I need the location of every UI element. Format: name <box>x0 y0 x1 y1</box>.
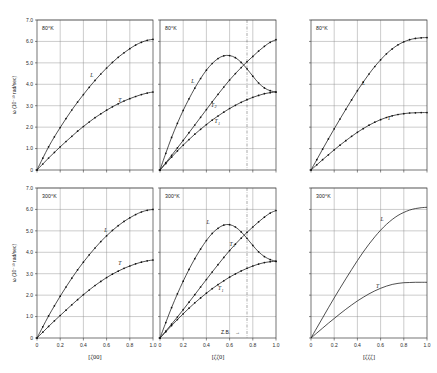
data-point <box>269 41 271 43</box>
x-tick-label: 1.0 <box>150 342 157 348</box>
y-tick-label: 3.0 <box>26 271 33 277</box>
x-tick-label: 0 <box>310 342 313 348</box>
x-axis-title: [ζζ0] <box>212 353 225 361</box>
data-point <box>146 260 148 262</box>
data-point <box>252 265 254 267</box>
branch-label-L: L <box>205 219 209 225</box>
data-point <box>211 119 213 121</box>
panel-ζζζ-80K: 80°KLT <box>309 20 428 173</box>
data-point <box>252 56 254 58</box>
data-point <box>246 61 248 63</box>
curve-L <box>160 55 276 170</box>
data-point <box>112 106 114 108</box>
data-point <box>129 265 131 267</box>
x-tick-label: 0.8 <box>126 342 133 348</box>
data-point <box>258 50 260 52</box>
data-point <box>264 87 266 89</box>
data-point <box>391 48 393 50</box>
data-point <box>211 288 213 290</box>
data-point <box>171 156 173 158</box>
data-point <box>374 121 376 123</box>
x-tick-label: 0.4 <box>80 342 87 348</box>
data-point <box>65 141 67 143</box>
branch-label-T1: T1 <box>215 118 221 126</box>
data-point <box>135 96 137 98</box>
data-point <box>141 94 143 96</box>
data-point <box>415 38 417 40</box>
data-point <box>246 68 248 70</box>
data-point <box>235 273 237 275</box>
data-point <box>206 69 208 71</box>
data-point <box>269 212 271 214</box>
data-point <box>152 38 154 40</box>
data-point <box>177 316 179 318</box>
x-axis-title: [ζζζ] <box>363 353 375 361</box>
data-point <box>217 115 219 117</box>
panel-frame <box>311 188 427 338</box>
data-point <box>188 307 190 309</box>
data-point <box>240 237 242 239</box>
data-point <box>252 245 254 247</box>
data-point <box>48 315 50 317</box>
y-tick-label: 7.0 <box>26 17 33 23</box>
data-point <box>339 144 341 146</box>
panel-temperature-label: 300°K <box>165 193 180 199</box>
data-point <box>211 63 213 65</box>
data-point <box>328 154 330 156</box>
data-point <box>106 235 108 237</box>
data-point <box>264 46 266 48</box>
data-point <box>206 240 208 242</box>
branch-label-T2: T2 <box>211 102 217 110</box>
data-point <box>83 126 85 128</box>
data-point <box>83 94 85 96</box>
data-point <box>345 140 347 142</box>
data-point <box>59 146 61 148</box>
data-point <box>223 257 225 259</box>
data-point <box>94 285 96 287</box>
data-point <box>71 304 73 306</box>
data-point <box>380 119 382 121</box>
data-point <box>54 152 56 154</box>
data-point <box>165 163 167 165</box>
phonon-dispersion-figure: 01.02.03.04.05.06.07.080°KLT80°KLT2T180°… <box>0 0 437 373</box>
panel-temperature-label: 300°K <box>42 193 57 199</box>
branch-label-T: T <box>376 283 380 289</box>
data-point <box>83 294 85 296</box>
data-point <box>200 248 202 250</box>
data-point <box>264 256 266 258</box>
data-point <box>223 111 225 113</box>
data-point <box>229 108 231 110</box>
data-point <box>159 169 161 171</box>
data-point <box>246 268 248 270</box>
data-point <box>59 295 61 297</box>
data-point <box>258 263 260 265</box>
data-point <box>269 90 271 92</box>
data-point <box>77 299 79 301</box>
panel-ζ00-80K: 01.02.03.04.05.06.07.080°KLT <box>26 17 154 173</box>
data-point <box>152 259 154 261</box>
data-point <box>123 100 125 102</box>
data-point <box>146 92 148 94</box>
data-point <box>54 136 56 138</box>
data-point <box>112 273 114 275</box>
data-point <box>333 149 335 151</box>
x-tick-label: 0.8 <box>249 342 256 348</box>
data-point <box>129 98 131 100</box>
data-point <box>240 62 242 64</box>
branch-label-subscript: 2 <box>215 104 217 109</box>
data-point <box>420 112 422 114</box>
data-point <box>182 140 184 142</box>
data-point <box>135 214 137 216</box>
data-point <box>146 40 148 42</box>
data-point <box>88 254 90 256</box>
y-axis-title: ω (10⁻¹³ rad/sec) <box>11 244 17 283</box>
panel-frame <box>160 188 276 338</box>
data-point <box>200 286 202 288</box>
x-tick-label: 0.2 <box>57 342 64 348</box>
x-tick-label: 0.6 <box>226 342 233 348</box>
data-point <box>42 331 44 333</box>
data-point <box>310 169 312 171</box>
data-point <box>229 224 231 226</box>
curve-T <box>37 92 153 170</box>
data-point <box>269 261 271 263</box>
